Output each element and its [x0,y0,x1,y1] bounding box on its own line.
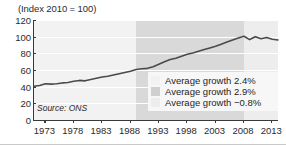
x-tick-mark [158,120,159,123]
x-tick-label: 1973 [34,125,55,136]
y-tick-mark [33,70,36,71]
x-tick-mark [243,120,244,123]
x-tick-mark [130,120,131,123]
y-tick-label: 60 [5,65,31,76]
legend-item-label: Average growth 2.4% [165,75,256,86]
x-tick-label: 2008 [232,125,253,136]
bottom-divider [0,144,286,145]
x-tick-mark [73,120,74,123]
legend-swatch-icon [151,98,160,107]
x-tick-mark [271,120,272,123]
x-tick-mark [44,120,45,123]
y-tick-label: 100 [5,32,31,43]
x-tick-label: 1988 [119,125,140,136]
y-tick-mark [33,120,36,121]
x-tick-label: 1993 [147,125,168,136]
y-tick-mark [33,53,36,54]
y-tick-mark [33,20,36,21]
x-tick-mark [101,120,102,123]
chart-figure: (Index 2010 = 100) 120 100 80 60 40 20 0… [0,0,286,145]
x-tick-label: 1978 [62,125,83,136]
y-axis: 120 100 80 60 40 20 0 [0,0,31,145]
legend-swatch-icon [151,87,160,96]
legend-item-label: Average growth 2.9% [165,86,256,97]
y-tick-mark [33,37,36,38]
x-tick-label: 2013 [261,125,282,136]
y-tick-mark [33,87,36,88]
x-tick-label: 2003 [204,125,225,136]
y-tick-label: 120 [5,15,31,26]
legend-item: Average growth 2.4% [151,75,274,86]
y-tick-label: 20 [5,98,31,109]
chart-legend: Average growth 2.4% Average growth 2.9% … [148,72,278,111]
y-tick-label: 40 [5,82,31,93]
legend-item: Average growth −0.8% [151,97,274,108]
x-tick-mark [215,120,216,123]
legend-swatch-icon [151,76,160,85]
source-note: Source: ONS [37,103,87,113]
x-tick-label: 1983 [91,125,112,136]
legend-item: Average growth 2.9% [151,86,274,97]
y-tick-label: 0 [5,115,31,126]
y-tick-label: 80 [5,48,31,59]
y-tick-mark [33,103,36,104]
x-tick-mark [186,120,187,123]
legend-item-label: Average growth −0.8% [165,97,261,108]
x-tick-label: 1998 [176,125,197,136]
